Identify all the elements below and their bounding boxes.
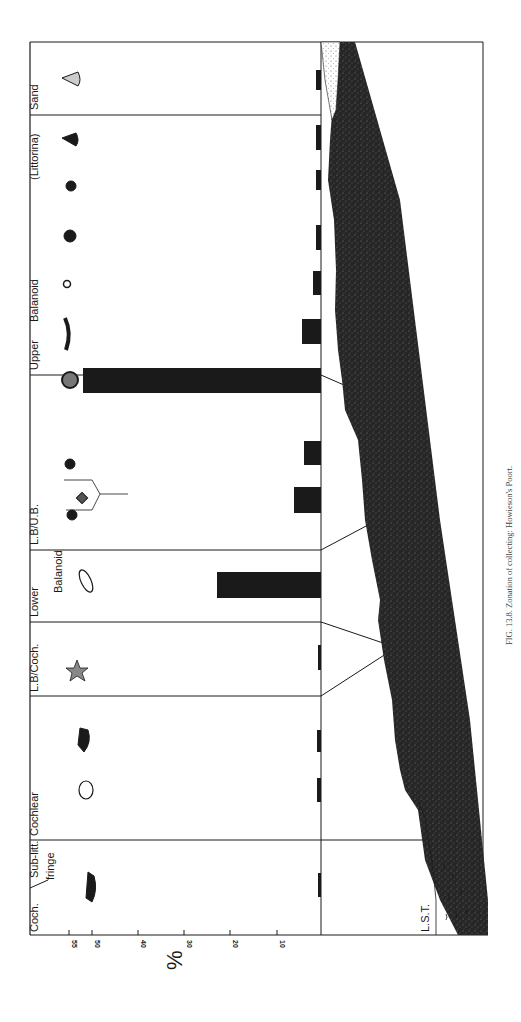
zonation-chart: L.S.T. 55 50 40 30 20 10 % Sand (Litt	[0, 0, 521, 1022]
tick-30: 30	[186, 940, 193, 948]
axis-label-percent: %	[162, 950, 187, 970]
zone-label-sublitt: Sub-litt.	[28, 841, 40, 878]
bar-upper-balanoid	[83, 368, 321, 393]
limpet-shell-icon	[62, 72, 80, 86]
zone-label-lower: Lower	[28, 587, 40, 617]
rock-profile	[328, 42, 488, 935]
bar-lower-balanoid	[217, 572, 321, 598]
axis	[69, 930, 277, 935]
bar-cochlear-1	[317, 730, 321, 752]
zone-label-upper: Upper	[28, 340, 40, 370]
figure-caption: FIG. 13.8. Zonation of collecting: Howie…	[504, 466, 514, 645]
bar-sand	[316, 70, 321, 90]
bar-fringe	[318, 873, 321, 897]
zone-label-balanoid-upper: Balanoid	[28, 279, 40, 322]
zone-label-balanoid-lower: Balanoid	[52, 550, 64, 593]
zone-label-sand: Sand	[28, 84, 40, 110]
slash	[30, 880, 48, 888]
starfish-icon	[66, 660, 88, 681]
topshell-icon	[64, 230, 76, 242]
zone-label-lbub: L.B/U.B.	[28, 504, 40, 545]
bar-cochlear-2	[317, 778, 321, 802]
shell-icons	[62, 72, 128, 902]
tick-55: 55	[71, 940, 78, 948]
zone-label-cochlear: Cochlear	[28, 792, 40, 836]
bar-lbub-2	[294, 487, 321, 513]
cochlear-limpet-icon-1	[78, 728, 89, 752]
bar-littorina-3	[316, 225, 321, 250]
bar-littorina-2	[316, 170, 321, 190]
mussel-strip-icon	[65, 318, 69, 350]
barnacle-cluster-icon	[62, 372, 78, 388]
small-snail-icon	[64, 281, 71, 288]
zone-label-lbcoch: L.B/Coch.	[28, 644, 40, 692]
bar-lbub-1	[304, 441, 321, 465]
winkle-shell-icon	[66, 181, 76, 191]
tick-50: 50	[94, 940, 101, 948]
urchin-icon	[67, 510, 77, 520]
cochlear-limpet-icon-2	[79, 781, 93, 799]
tick-20: 20	[232, 940, 239, 948]
lst-label: L.S.T.	[419, 904, 431, 932]
zone-label-fringe: fringe	[44, 852, 56, 880]
chiton-icon	[76, 492, 87, 503]
zone-label-littorina: (Littorina)	[28, 134, 40, 180]
bar-littorina-1	[316, 125, 321, 150]
bar-lbcoch	[318, 645, 321, 670]
littorina-shell-icon	[62, 133, 78, 146]
spiny-shell-icon	[65, 459, 75, 469]
fringe-limpet-icon	[86, 872, 96, 902]
tick-40: 40	[140, 940, 147, 948]
tick-10: 10	[279, 940, 286, 948]
bars	[83, 70, 321, 897]
bar-littorina-4	[313, 271, 321, 295]
oyster-shell-icon	[76, 568, 95, 594]
branch-bracket	[64, 480, 128, 510]
bar-littorina-5	[302, 319, 321, 344]
zone-label-coch: Coch.	[28, 903, 40, 932]
